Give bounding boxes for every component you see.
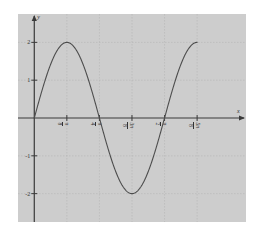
fraction-denominator: 8 — [57, 122, 63, 126]
x-tick-label: 3π8 — [122, 122, 134, 129]
fraction: π8 — [57, 122, 69, 126]
x-tick-label: π4 — [90, 122, 102, 126]
y-tick-label: 1 — [10, 77, 30, 83]
figure-canvas: π8π43π8π25π8 21-1-2 x y — [0, 0, 263, 239]
fraction-denominator: 2 — [155, 122, 161, 126]
fraction-denominator: 8 — [187, 122, 193, 129]
fraction: 5π8 — [187, 122, 199, 129]
fraction: π4 — [90, 122, 102, 126]
fraction: π2 — [155, 122, 167, 126]
fraction-numerator: π — [160, 122, 167, 126]
y-tick-label: 2 — [10, 39, 30, 45]
fraction: 3π8 — [122, 122, 134, 129]
x-tick-label: π2 — [155, 122, 167, 126]
fraction-denominator: 8 — [122, 122, 128, 129]
y-axis-label: y — [37, 14, 40, 20]
fraction-numerator: 3π — [128, 122, 135, 129]
x-axis-label: x — [237, 108, 240, 114]
x-tick-label: π8 — [57, 122, 69, 126]
plot-area: π8π43π8π25π8 21-1-2 x y — [18, 14, 246, 222]
fraction-numerator: π — [63, 122, 70, 126]
y-tick-label: -2 — [10, 191, 30, 197]
fraction-numerator: π — [95, 122, 102, 126]
plot-svg — [18, 14, 246, 222]
x-tick-label: 5π8 — [187, 122, 199, 129]
fraction-denominator: 4 — [90, 122, 96, 126]
y-tick-label: -1 — [10, 153, 30, 159]
